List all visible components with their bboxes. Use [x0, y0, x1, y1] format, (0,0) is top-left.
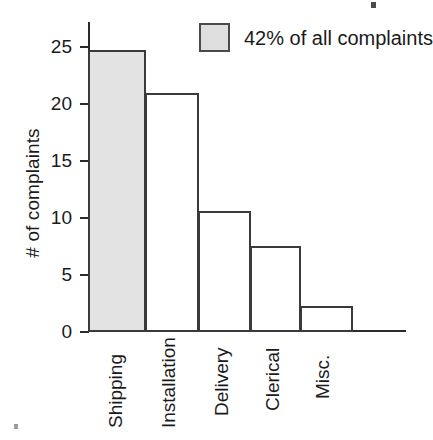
y-tick-label-20: 20	[12, 94, 72, 113]
x-label-clerical: Clerical	[263, 348, 283, 411]
bar-installation	[145, 93, 199, 332]
y-tick-25	[80, 46, 89, 48]
scan-artifact-speck	[371, 2, 376, 8]
x-label-delivery: Delivery	[212, 347, 232, 416]
x-label-shipping: Shipping	[106, 354, 126, 428]
scan-artifact-speck-2	[14, 424, 18, 429]
y-tick-label-10: 10	[12, 208, 72, 227]
bar-shipping	[88, 50, 146, 332]
y-tick-label-25: 25	[12, 37, 72, 56]
bar-misc	[300, 306, 353, 332]
legend-swatch-shipping	[199, 23, 230, 52]
bar-clerical	[250, 246, 301, 332]
y-tick-label-15: 15	[12, 151, 72, 170]
y-tick-label-5: 5	[12, 265, 72, 284]
y-axis-title: # of complaints	[20, 103, 46, 283]
bar-delivery	[198, 211, 251, 332]
legend-label: 42% of all complaints	[244, 28, 433, 48]
x-label-installation: Installation	[159, 337, 179, 428]
x-label-misc: Misc.	[313, 355, 333, 399]
legend: 42% of all complaints	[199, 23, 433, 52]
y-tick-label-0: 0	[12, 322, 72, 341]
